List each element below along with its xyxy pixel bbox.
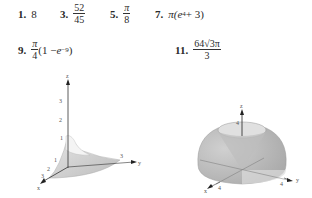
svg-text:1: 1 — [60, 135, 63, 141]
svg-text:y: y — [296, 177, 299, 183]
svg-text:4: 4 — [280, 181, 283, 187]
fraction: π 4 — [31, 38, 38, 61]
fraction: 52 45 — [73, 2, 85, 25]
fraction: 64√3π 3 — [193, 38, 221, 61]
answer-3: 3. 52 45 — [60, 2, 85, 25]
figure-solid-plot: z 4 y 4 4 x — [156, 70, 312, 198]
svg-text:x: x — [37, 185, 40, 191]
svg-text:4: 4 — [236, 120, 239, 126]
svg-text:x: x — [204, 188, 207, 194]
svg-text:z: z — [66, 73, 69, 79]
svg-text:3: 3 — [120, 153, 123, 159]
svg-text:3: 3 — [59, 98, 62, 104]
svg-text:y: y — [138, 160, 141, 166]
svg-text:4: 4 — [218, 185, 221, 191]
answer-11: 11. 64√3π 3 — [175, 38, 221, 61]
svg-text:z: z — [240, 103, 243, 109]
answer-9: 9. π 4 (1 − e−9) — [18, 38, 72, 61]
svg-text:3: 3 — [41, 173, 44, 179]
answer-7: 7. π(e4 + 3) — [155, 8, 204, 20]
svg-text:2: 2 — [47, 166, 50, 172]
figure-surface-plot: z 3 2 1 3 y 1 2 3 x — [0, 70, 156, 198]
fraction: π 8 — [123, 2, 130, 25]
svg-text:1: 1 — [54, 157, 57, 163]
svg-text:2: 2 — [59, 117, 62, 123]
answer-5: 5. π 8 — [110, 2, 130, 25]
answer-1: 1. 8 — [18, 8, 37, 20]
